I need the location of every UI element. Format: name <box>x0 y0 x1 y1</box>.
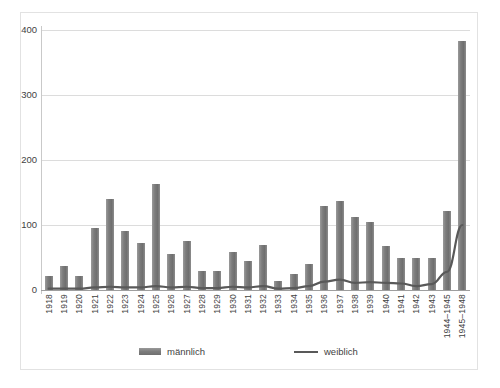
x-tick-1923: 1923 <box>120 294 130 314</box>
x-tick-1922: 1922 <box>105 294 115 314</box>
x-tick-1941: 1941 <box>396 294 406 314</box>
bar-swatch-icon <box>139 348 161 355</box>
x-tick-1934: 1934 <box>289 294 299 314</box>
x-tick-1935: 1935 <box>304 294 314 314</box>
x-tick-1927: 1927 <box>182 294 192 314</box>
legend-item-weiblich: weiblich <box>294 346 358 357</box>
y-tick-300: 300 <box>3 90 37 100</box>
x-tick-1929: 1929 <box>212 294 222 314</box>
x-tick-1926: 1926 <box>166 294 176 314</box>
x-tick-1936: 1936 <box>319 294 329 314</box>
x-tick-1939: 1939 <box>365 294 375 314</box>
x-tick-1945-1948: 1945–1948 <box>457 294 467 338</box>
x-axis-labels: 1918191919201921192219231924192519261927… <box>41 292 470 348</box>
legend-label-maennlich: männlich <box>167 346 205 357</box>
x-tick-1928: 1928 <box>197 294 207 314</box>
x-tick-1925: 1925 <box>151 294 161 314</box>
legend-label-weiblich: weiblich <box>324 346 358 357</box>
x-axis-line <box>41 290 470 291</box>
line-swatch-icon <box>294 351 318 353</box>
weiblich-line-path <box>41 30 470 290</box>
legend-item-maennlich: männlich <box>139 346 205 357</box>
x-tick-1940: 1940 <box>381 294 391 314</box>
chart-legend: männlich weiblich <box>41 346 470 364</box>
x-tick-1942: 1942 <box>411 294 421 314</box>
y-tick-100: 100 <box>3 220 37 230</box>
chart-container: 400 300 200 100 0 1918191919201921192219… <box>0 0 500 388</box>
y-tick-0: 0 <box>3 285 37 295</box>
x-tick-1924: 1924 <box>136 294 146 314</box>
x-tick-1938: 1938 <box>350 294 360 314</box>
line-series-weiblich <box>41 30 470 290</box>
y-tick-200: 200 <box>3 155 37 165</box>
x-tick-1930: 1930 <box>228 294 238 314</box>
x-tick-1943: 1943 <box>427 294 437 314</box>
x-tick-1933: 1933 <box>273 294 283 314</box>
x-tick-1921: 1921 <box>90 294 100 314</box>
y-axis-labels: 400 300 200 100 0 <box>0 0 37 388</box>
x-tick-1937: 1937 <box>335 294 345 314</box>
x-tick-1931: 1931 <box>243 294 253 314</box>
y-tick-400: 400 <box>3 25 37 35</box>
x-tick-1920: 1920 <box>74 294 84 314</box>
x-tick-1932: 1932 <box>258 294 268 314</box>
x-tick-1944-1945: 1944–1945 <box>442 294 452 338</box>
x-tick-1918: 1918 <box>44 294 54 314</box>
x-tick-1919: 1919 <box>59 294 69 314</box>
